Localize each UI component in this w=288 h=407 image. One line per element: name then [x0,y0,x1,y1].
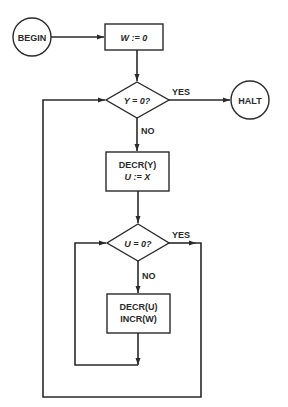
test-u-no-label: NO [142,271,156,281]
node-step-y: DECR(Y) U := X [106,152,169,191]
test-y-no-label: NO [141,126,155,136]
node-halt: HALT [231,81,269,119]
init-label: W := 0 [121,33,148,43]
flowchart: BEGIN W := 0 Y = 0? YES NO HALT DECR(Y) … [0,0,288,407]
node-step-u: DECR(U) INCR(W) [107,294,170,333]
node-init: W := 0 [105,24,163,50]
step-u-line1: DECR(U) [120,302,158,312]
node-begin: BEGIN [13,18,51,56]
step-y-line2: U := X [125,172,152,182]
node-test-u: U = 0? [107,224,169,261]
begin-label: BEGIN [18,33,47,43]
test-y-label: Y = 0? [124,96,151,106]
step-y-line1: DECR(Y) [119,160,157,170]
step-u-line2: INCR(W) [120,314,157,324]
test-u-label: U = 0? [124,239,152,249]
node-test-y: Y = 0? [106,82,169,118]
test-u-yes-label: YES [172,230,190,240]
test-y-yes-label: YES [172,87,190,97]
halt-label: HALT [238,96,262,106]
